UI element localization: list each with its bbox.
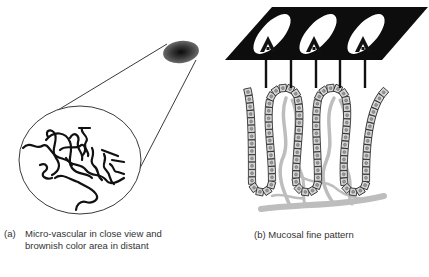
epithelial-cell [343, 112, 350, 119]
epithelial-cell [267, 144, 275, 152]
epithelial-cell [292, 171, 299, 178]
epithelial-cell [313, 130, 320, 137]
epithelial-cell [362, 174, 369, 181]
epithelial-cell [363, 152, 371, 160]
epithelial-cell [295, 104, 303, 112]
epithelial-cell [293, 148, 301, 156]
figure: (a) Micro-vascular in close view and bro… [0, 0, 429, 277]
caption-a-line-1: Micro-vascular in close view and [25, 228, 162, 239]
epithelial-cell [267, 180, 276, 189]
epithelial-cell [341, 148, 349, 156]
epithelial-cell [296, 119, 303, 126]
epithelial-cell [248, 140, 255, 147]
epithelial-cell [313, 122, 320, 129]
epithelial-cell [295, 134, 303, 142]
epithelial-cell [340, 156, 348, 164]
epithelial-cell [248, 162, 255, 169]
panel-a [19, 39, 200, 214]
caption-a-text: Micro-vascular in close view and brownis… [25, 228, 215, 252]
caption-panel-b: (b) Mucosal fine pattern [254, 229, 354, 241]
epithelial-cell [244, 88, 253, 97]
epithelial-cell [265, 129, 273, 137]
epithelial-cell [245, 95, 253, 103]
epithelial-cell [265, 115, 272, 122]
epithelial-cell [343, 104, 351, 112]
epithelial-cell [247, 118, 255, 126]
epithelial-cell [265, 122, 273, 130]
epithelial-cell [248, 133, 255, 140]
epithelial-cell [314, 159, 321, 166]
epithelial-cell [313, 107, 321, 115]
epithelial-cell [293, 163, 301, 171]
epithelial-cell [314, 167, 321, 174]
epithelial-cell [363, 159, 370, 166]
epithelial-cell [248, 155, 255, 162]
epithelial-cell [248, 125, 255, 132]
epithelial-cell [268, 159, 276, 167]
brownish-area-spot [162, 39, 201, 66]
epithelial-cell [314, 174, 321, 181]
epithelial-cell [313, 115, 320, 122]
epithelial-cell [340, 171, 347, 178]
epithelial-cell [268, 166, 275, 173]
epithelial-cell [343, 119, 351, 127]
epithelial-cell [246, 103, 254, 111]
cone-line-top [53, 44, 167, 113]
epithelial-cell [364, 137, 372, 145]
panel-b [225, 7, 428, 209]
epithelial-cell [296, 112, 303, 119]
epithelial-cell [313, 144, 321, 152]
epithelial-cell [268, 174, 275, 181]
epithelial-cell [265, 107, 273, 115]
cone-line-bottom [139, 60, 196, 170]
pit-connectors [266, 58, 365, 88]
epithelial-cell [314, 152, 322, 160]
epithelial-cell [267, 151, 275, 159]
epithelial-cell [342, 96, 350, 104]
epithelial-cell [340, 163, 347, 170]
epithelial-cell [362, 167, 369, 174]
epithelial-cell [294, 141, 302, 149]
epithelial-cell [313, 137, 320, 144]
epithelial-cell [295, 126, 303, 134]
epithelial-cell [248, 170, 255, 177]
epithelial-cell [247, 110, 255, 118]
epithelial-cell [342, 126, 350, 134]
epithelial-cell-layer [244, 84, 389, 196]
epithelial-cell [365, 129, 373, 137]
epithelial-cell [266, 137, 274, 145]
epithelial-cell [248, 147, 255, 154]
epithelial-cell [363, 144, 371, 152]
epithelial-cell [342, 133, 350, 141]
epithelial-cell [294, 96, 302, 104]
epithelial-cell [341, 141, 349, 149]
caption-a-label: (a) [4, 228, 16, 240]
caption-a-line-2: brownish color area in distant [25, 240, 149, 251]
epithelial-cell [293, 156, 301, 164]
magnified-view-circle [19, 106, 141, 214]
